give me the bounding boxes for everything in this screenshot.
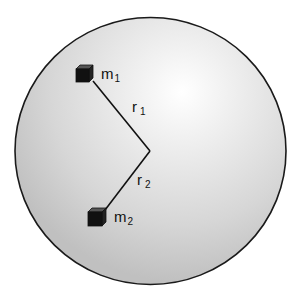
mass-1-block <box>76 65 93 82</box>
mass-2-block <box>88 208 106 226</box>
sphere <box>15 18 286 285</box>
two-mass-sphere-diagram: m1 m2 r1 r2 <box>0 0 304 302</box>
